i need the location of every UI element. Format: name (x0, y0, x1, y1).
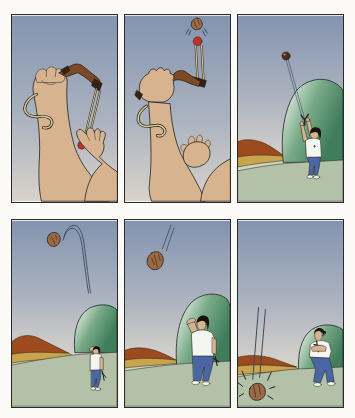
shoe-right (95, 388, 100, 391)
shoe-right (327, 382, 335, 386)
panel-3 (237, 14, 344, 203)
shoe-left (192, 381, 200, 385)
panel-3-illustration (238, 15, 343, 202)
left-hand (300, 122, 304, 126)
shirt (306, 138, 322, 158)
panel-2 (124, 14, 231, 203)
panel-5-illustration (125, 220, 230, 407)
shirt-logo-dot (314, 146, 315, 147)
right-hand (306, 118, 310, 122)
panel-1-illustration (12, 15, 117, 202)
shoe-right (202, 382, 210, 386)
falling-rock (147, 252, 163, 270)
left-arm-down (212, 338, 216, 355)
crossed-arms (312, 345, 327, 351)
panel-6 (237, 219, 344, 408)
shoe-left (307, 175, 313, 178)
panel-6-illustration (238, 220, 343, 407)
panel-1 (11, 14, 118, 203)
landed-rock (249, 383, 265, 400)
panel-5 (124, 219, 231, 408)
panel-4 (11, 219, 118, 408)
rock-at-apex (47, 232, 60, 246)
panel-4-illustration (12, 220, 117, 407)
panel-2-illustration (125, 15, 230, 202)
comic-page (0, 0, 355, 418)
shoe-right (313, 176, 319, 179)
head (315, 331, 323, 341)
shoe-left (314, 383, 322, 387)
rock-highlight (284, 54, 286, 56)
snapped-pouch (193, 37, 202, 46)
flying-rock (282, 52, 290, 60)
shirt (192, 330, 216, 356)
right-arm-down (100, 357, 103, 370)
